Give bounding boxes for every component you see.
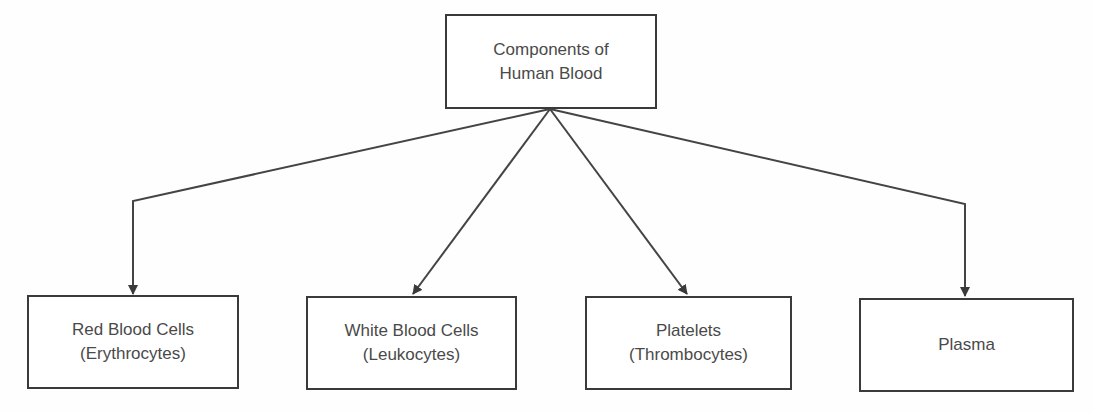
node-label-line-1: Platelets xyxy=(656,319,721,343)
node-plasma: Plasma xyxy=(859,298,1074,392)
edge-root-to-rbc xyxy=(133,109,550,294)
edge-root-to-platelets xyxy=(550,109,687,294)
node-label-line-2: (Leukocytes) xyxy=(363,343,460,367)
node-label-line-1: Red Blood Cells xyxy=(72,318,194,342)
node-red-blood-cells: Red Blood Cells (Erythrocytes) xyxy=(27,295,239,389)
node-label-line-2: (Erythrocytes) xyxy=(80,342,186,366)
node-label-line-2: (Thrombocytes) xyxy=(629,343,748,367)
edge-root-to-wbc xyxy=(413,109,550,294)
node-platelets: Platelets (Thrombocytes) xyxy=(585,296,792,390)
node-label-line-1: White Blood Cells xyxy=(344,319,478,343)
edge-root-to-plasma xyxy=(550,109,965,296)
node-label-line-1: Plasma xyxy=(938,333,995,357)
diagram-canvas: Components of Human Blood Red Blood Cell… xyxy=(0,0,1094,414)
root-node-label-line-2: Human Blood xyxy=(499,62,602,86)
root-node-label-line-1: Components of xyxy=(493,38,608,62)
node-white-blood-cells: White Blood Cells (Leukocytes) xyxy=(306,296,517,390)
root-node-components-of-human-blood: Components of Human Blood xyxy=(445,14,657,109)
